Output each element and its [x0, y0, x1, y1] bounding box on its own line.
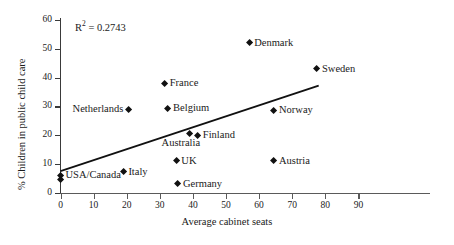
- data-point-label: Belgium: [173, 103, 209, 114]
- data-point-label: Austria: [279, 156, 310, 167]
- data-point-label: France: [170, 78, 199, 89]
- data-point-label: Finland: [203, 130, 235, 141]
- y-axis-title: % Children in public child care: [16, 58, 27, 190]
- data-point-label: Denmark: [254, 38, 293, 49]
- data-point-label: Italy: [128, 167, 147, 178]
- scatter-chart: 0102030405060708090 0102030405060 Denmar…: [0, 0, 454, 245]
- data-point-label: Sweden: [322, 64, 355, 75]
- r-squared-text: R: [75, 22, 82, 33]
- trend-line: [0, 0, 454, 245]
- x-axis-title: Average cabinet seats: [0, 216, 454, 227]
- data-point-label: Australia: [162, 138, 201, 149]
- data-point-label: UK: [181, 156, 196, 167]
- r-squared-annotation: R2 = 0.2743: [75, 19, 126, 33]
- plot-area: 0102030405060708090 0102030405060 Denmar…: [0, 0, 454, 245]
- data-point-label: Netherlands: [73, 104, 124, 115]
- r-squared-value: = 0.2743: [86, 22, 126, 33]
- data-point-label: USA/Canada: [66, 170, 121, 181]
- data-point-label: Norway: [279, 105, 313, 116]
- data-point-label: Germany: [183, 179, 222, 190]
